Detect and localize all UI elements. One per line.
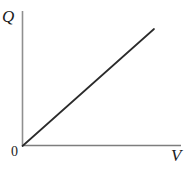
graph-figure: Q V 0 xyxy=(0,0,195,173)
y-axis-label: Q xyxy=(2,8,14,25)
x-axis-label: V xyxy=(171,147,181,164)
data-line-q-vs-v xyxy=(23,29,155,146)
origin-label: 0 xyxy=(11,145,18,159)
plot-area xyxy=(0,0,195,173)
